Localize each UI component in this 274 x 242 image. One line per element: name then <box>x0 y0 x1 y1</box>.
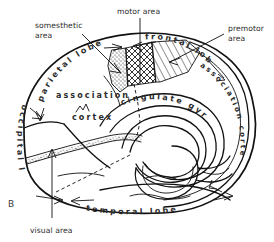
brain-diagram-figure: somesthetic area motor area premotor are… <box>0 0 274 242</box>
occipito-temporal-sulcus <box>58 173 104 176</box>
callout-visual-area: visual area <box>30 226 73 235</box>
callout-premotor-line2: area <box>228 34 245 43</box>
motor-area-region <box>126 42 156 86</box>
temporal-arrow-left <box>72 200 94 201</box>
label-cortex: cortex <box>72 113 113 122</box>
callout-motor-area: motor area <box>117 7 160 16</box>
brainstem-lower <box>196 174 232 182</box>
callout-somesthetic-line1: somesthetic <box>35 21 82 30</box>
visual-area-edge <box>27 140 141 164</box>
occipital-notch <box>24 122 64 128</box>
callout-somesthetic-line2: area <box>35 31 52 40</box>
association-cortex-marker <box>76 104 89 112</box>
panel-label: B <box>8 199 14 209</box>
label-temporal-lobe: temporal lobe <box>85 204 178 217</box>
callout-premotor-line1: premotor <box>228 24 265 33</box>
brain-diagram-svg: somesthetic area motor area premotor are… <box>0 0 274 242</box>
label-association: association <box>56 91 130 100</box>
